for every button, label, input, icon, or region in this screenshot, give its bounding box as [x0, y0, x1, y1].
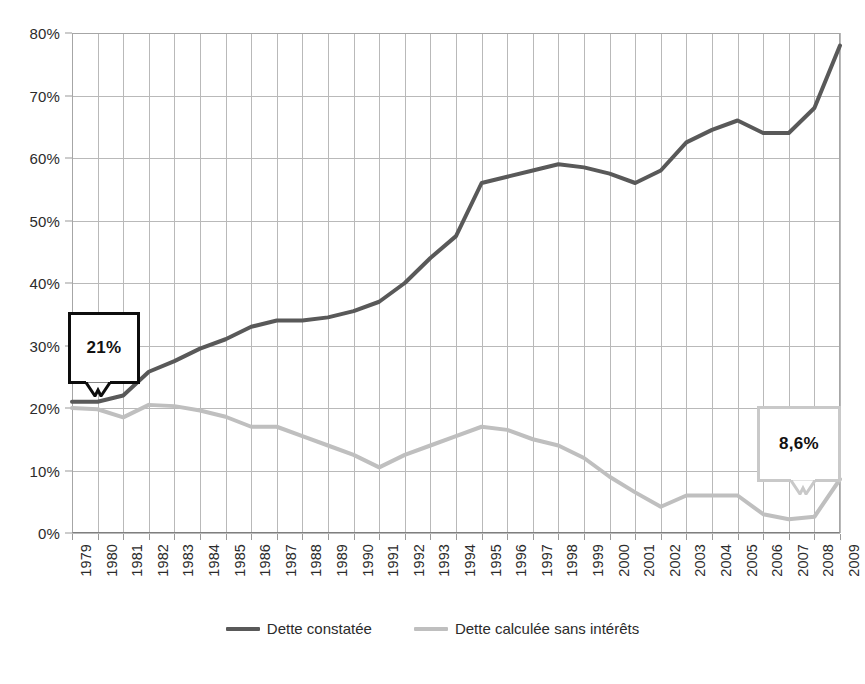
- x-axis-tick-label: 2003: [692, 544, 708, 577]
- x-axis-tick-mark: [456, 534, 457, 540]
- annotation-callout-left: 21%: [68, 312, 140, 384]
- x-axis-tick-label: 2000: [616, 544, 632, 577]
- x-axis-tick-mark: [558, 534, 559, 540]
- x-axis-tick-mark: [635, 534, 636, 540]
- x-axis-tick-label: 2008: [820, 544, 836, 577]
- x-axis-tick-mark: [840, 534, 841, 540]
- callout-tail-icon: [85, 381, 111, 397]
- x-axis-tick-label: 1979: [78, 544, 94, 577]
- plot-area: [72, 33, 840, 533]
- series-layer: [72, 33, 840, 533]
- x-axis-tick-mark: [405, 534, 406, 540]
- x-axis-tick-label: 1992: [411, 544, 427, 577]
- x-axis-tick-mark: [277, 534, 278, 540]
- x-axis-tick-label: 2007: [795, 544, 811, 577]
- y-axis-tick-mark: [65, 220, 72, 221]
- x-axis-tick-label: 1995: [488, 544, 504, 577]
- x-axis-tick-mark: [789, 534, 790, 540]
- y-axis: 0%10%20%30%40%50%60%70%80%: [0, 0, 72, 566]
- y-axis-tick-label: 0%: [38, 525, 60, 542]
- y-axis-tick-label: 20%: [29, 400, 60, 417]
- x-axis-tick-label: 1989: [334, 544, 350, 577]
- x-axis-tick-mark: [354, 534, 355, 540]
- x-axis-tick-mark: [738, 534, 739, 540]
- legend-item[interactable]: Dette constatée: [226, 620, 372, 637]
- x-axis-tick-mark: [174, 534, 175, 540]
- chart-container: 0%10%20%30%40%50%60%70%80% 1979198019811…: [0, 0, 865, 684]
- y-axis-tick-mark: [65, 158, 72, 159]
- x-axis-tick-mark: [661, 534, 662, 540]
- x-axis-tick-mark: [584, 534, 585, 540]
- x-axis-tick-label: 1994: [462, 544, 478, 577]
- x-axis-tick-mark: [814, 534, 815, 540]
- y-axis-tick-mark: [65, 533, 72, 534]
- x-axis-tick-label: 1987: [283, 544, 299, 577]
- x-axis-tick-mark: [763, 534, 764, 540]
- x-axis-tick-label: 2009: [846, 544, 862, 577]
- annotation-callout-left-text: 21%: [87, 338, 122, 358]
- x-axis-tick-mark: [507, 534, 508, 540]
- x-axis-tick-mark: [482, 534, 483, 540]
- legend-swatch-icon: [414, 627, 448, 631]
- legend-item[interactable]: Dette calculée sans intérêts: [414, 620, 639, 637]
- x-axis-tick-label: 1999: [590, 544, 606, 577]
- x-axis-tick-label: 1981: [129, 544, 145, 577]
- x-axis-tick-mark: [379, 534, 380, 540]
- x-axis-tick-label: 2001: [641, 544, 657, 577]
- series-line: [72, 405, 840, 519]
- x-axis-tick-label: 1993: [436, 544, 452, 577]
- x-axis-tick-mark: [123, 534, 124, 540]
- x-axis-tick-label: 2004: [718, 544, 734, 577]
- x-axis-tick-label: 1986: [257, 544, 273, 577]
- x-axis-tick-label: 2002: [667, 544, 683, 577]
- x-axis-tick-label: 2005: [744, 544, 760, 577]
- x-axis-tick-label: 1984: [206, 544, 222, 577]
- x-axis-tick-mark: [430, 534, 431, 540]
- x-axis-tick-label: 1991: [385, 544, 401, 577]
- y-axis-tick-label: 40%: [29, 275, 60, 292]
- y-axis-tick-label: 60%: [29, 150, 60, 167]
- x-axis-tick-mark: [98, 534, 99, 540]
- x-axis-tick-label: 2006: [769, 544, 785, 577]
- x-axis-tick-label: 1985: [232, 544, 248, 577]
- x-axis-tick-label: 1996: [513, 544, 529, 577]
- x-axis-tick-mark: [226, 534, 227, 540]
- x-axis-tick-label: 1980: [104, 544, 120, 577]
- x-axis-tick-mark: [686, 534, 687, 540]
- x-axis-tick-mark: [251, 534, 252, 540]
- y-axis-tick-label: 70%: [29, 87, 60, 104]
- x-axis-tick-label: 1998: [564, 544, 580, 577]
- x-axis-tick-mark: [200, 534, 201, 540]
- x-axis-tick-mark: [149, 534, 150, 540]
- x-axis-tick-label: 1982: [155, 544, 171, 577]
- legend-swatch-icon: [226, 627, 260, 631]
- y-axis-tick-label: 10%: [29, 462, 60, 479]
- y-axis-tick-label: 30%: [29, 337, 60, 354]
- x-axis-tick-mark: [328, 534, 329, 540]
- x-axis-tick-mark: [712, 534, 713, 540]
- annotation-callout-right: 8,6%: [757, 406, 841, 482]
- y-axis-tick-label: 50%: [29, 212, 60, 229]
- legend-label: Dette constatée: [267, 620, 372, 637]
- x-axis-tick-label: 1990: [360, 544, 376, 577]
- y-axis-tick-mark: [65, 283, 72, 284]
- annotation-callout-right-text: 8,6%: [779, 434, 819, 454]
- x-axis-tick-label: 1997: [539, 544, 555, 577]
- chart-legend: Dette constatéeDette calculée sans intér…: [0, 620, 865, 637]
- x-axis: 1979198019811982198319841985198619871988…: [72, 534, 840, 624]
- x-axis-tick-mark: [72, 534, 73, 540]
- x-axis-tick-mark: [302, 534, 303, 540]
- callout-tail-icon: [790, 479, 816, 495]
- y-axis-tick-mark: [65, 33, 72, 34]
- legend-label: Dette calculée sans intérêts: [455, 620, 639, 637]
- x-axis-tick-label: 1983: [180, 544, 196, 577]
- y-axis-tick-mark: [65, 95, 72, 96]
- y-axis-tick-mark: [65, 470, 72, 471]
- x-axis-tick-label: 1988: [308, 544, 324, 577]
- x-axis-tick-mark: [610, 534, 611, 540]
- y-axis-tick-label: 80%: [29, 25, 60, 42]
- x-axis-tick-mark: [533, 534, 534, 540]
- series-line: [72, 46, 840, 402]
